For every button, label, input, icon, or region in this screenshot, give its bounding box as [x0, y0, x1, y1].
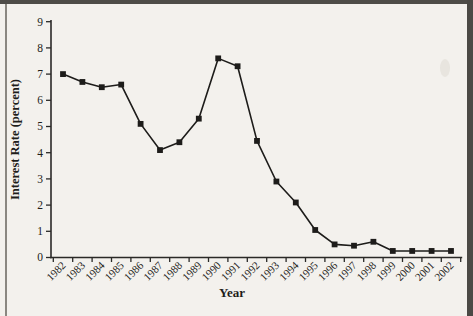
data-point-1982 — [60, 71, 66, 77]
data-point-1984 — [99, 84, 105, 90]
scan-smudge — [440, 59, 450, 77]
data-point-2002 — [448, 248, 454, 254]
y-tick-label: 3 — [37, 173, 43, 185]
data-point-1989 — [196, 116, 202, 122]
x-tick-label-1991: 1991 — [218, 259, 242, 283]
x-tick-label-1990: 1990 — [199, 259, 223, 283]
x-tick-label-1982: 1982 — [44, 259, 68, 283]
x-tick-label-1993: 1993 — [257, 259, 281, 283]
y-tick-label: 1 — [37, 225, 43, 237]
x-tick-label-1985: 1985 — [102, 259, 126, 283]
x-tick-label-1986: 1986 — [121, 259, 145, 283]
y-tick-label: 9 — [37, 16, 43, 28]
data-point-1998 — [371, 239, 377, 245]
x-tick-label-1992: 1992 — [238, 259, 262, 283]
y-tick-label: 4 — [37, 147, 43, 159]
data-point-1987 — [157, 147, 163, 153]
data-point-2001 — [429, 248, 435, 254]
data-point-1988 — [177, 139, 183, 145]
x-tick-label-1999: 1999 — [374, 259, 398, 283]
x-tick-label-1988: 1988 — [160, 259, 184, 283]
data-point-1986 — [138, 121, 144, 127]
y-tick-label: 2 — [37, 199, 43, 211]
data-point-1992 — [254, 138, 260, 144]
x-tick-label-1989: 1989 — [180, 259, 204, 283]
x-tick-label-1996: 1996 — [315, 259, 339, 283]
data-point-1995 — [312, 227, 318, 233]
data-point-1996 — [332, 242, 338, 248]
data-point-1999 — [390, 248, 396, 254]
data-point-1993 — [274, 179, 280, 185]
scanned-figure-page: 0123456789198219831984198519861987198819… — [0, 0, 473, 316]
y-tick-label: 8 — [37, 42, 43, 54]
data-point-1985 — [118, 82, 124, 88]
x-tick-label-1995: 1995 — [296, 259, 320, 283]
data-point-1983 — [80, 79, 86, 85]
x-tick-label-1984: 1984 — [83, 259, 107, 283]
data-point-1997 — [351, 243, 357, 249]
x-tick-label-1983: 1983 — [63, 259, 87, 283]
x-tick-label-1998: 1998 — [354, 259, 378, 283]
data-point-1991 — [235, 63, 241, 69]
x-tick-label-1987: 1987 — [141, 259, 165, 283]
x-tick-label-2002: 2002 — [432, 259, 456, 283]
y-tick-label: 0 — [37, 251, 43, 263]
data-point-2000 — [409, 248, 415, 254]
x-tick-label-1997: 1997 — [335, 259, 359, 283]
x-tick-label-1994: 1994 — [277, 259, 301, 283]
x-tick-label-2000: 2000 — [393, 259, 417, 283]
y-tick-label: 6 — [37, 94, 43, 106]
x-axis-title: Year — [219, 285, 245, 300]
interest-rate-line-chart: 0123456789198219831984198519861987198819… — [0, 0, 473, 316]
y-tick-label: 5 — [37, 120, 43, 132]
y-tick-label: 7 — [37, 68, 43, 80]
x-tick-label-2001: 2001 — [412, 259, 436, 283]
chart-canvas: 0123456789198219831984198519861987198819… — [0, 0, 473, 316]
y-axis-title: Interest Rate (percent) — [8, 79, 22, 200]
data-point-1994 — [293, 200, 299, 206]
data-point-1990 — [215, 55, 221, 61]
